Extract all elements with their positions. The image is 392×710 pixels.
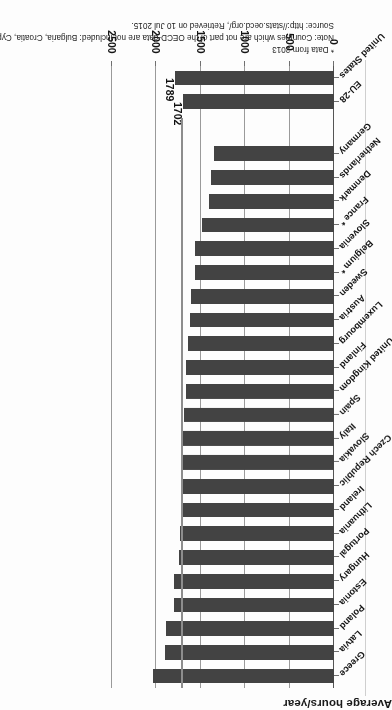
bar-row: Latvia bbox=[112, 645, 334, 660]
bar[interactable] bbox=[181, 503, 334, 518]
bar-value-label: 1789 bbox=[164, 78, 176, 101]
bar-row: Slovenia bbox=[112, 241, 334, 256]
category-tick bbox=[334, 319, 339, 320]
plot-area: 05001000150020002500 GreeceLatviaPolandE… bbox=[112, 66, 334, 688]
bar-row: Hungary bbox=[112, 574, 334, 589]
category-label: Spain bbox=[337, 393, 362, 418]
bar-row: Greece bbox=[112, 669, 334, 684]
bar[interactable] bbox=[182, 455, 334, 470]
category-tick bbox=[334, 248, 339, 249]
bar[interactable] bbox=[175, 71, 334, 86]
bar-row: Slovakia bbox=[112, 455, 334, 470]
bar-row: Netherlands bbox=[112, 170, 334, 185]
chart-canvas: Average hours/year 05001000150020002500 … bbox=[0, 0, 392, 710]
bar-row: France * bbox=[112, 218, 334, 233]
bar[interactable] bbox=[153, 669, 334, 684]
footnote-data-year: * Data from 2013 bbox=[4, 43, 334, 55]
category-tick bbox=[334, 390, 339, 391]
category-tick bbox=[334, 200, 339, 201]
bar[interactable] bbox=[188, 336, 334, 351]
category-tick bbox=[334, 604, 339, 605]
category-tick bbox=[334, 101, 339, 102]
bar[interactable] bbox=[209, 194, 334, 209]
category-tick bbox=[334, 461, 339, 462]
bar[interactable] bbox=[183, 94, 334, 109]
bar-row: Ireland bbox=[112, 503, 334, 518]
category-label: Poland bbox=[337, 602, 366, 631]
bar-row: Austria bbox=[112, 313, 334, 328]
category-tick bbox=[334, 77, 339, 78]
category-tick bbox=[334, 272, 339, 273]
bar[interactable] bbox=[182, 431, 334, 446]
category-label: Greece bbox=[337, 649, 366, 678]
bar[interactable] bbox=[195, 265, 334, 280]
bar[interactable] bbox=[174, 574, 334, 589]
bar-row: Poland bbox=[112, 621, 334, 636]
bar[interactable] bbox=[190, 313, 334, 328]
bar-row: Denmark bbox=[112, 194, 334, 209]
category-tick bbox=[334, 438, 339, 439]
category-label: EU-28 bbox=[337, 78, 363, 104]
category-tick bbox=[334, 533, 339, 534]
bar[interactable] bbox=[165, 645, 334, 660]
bar-row: Czech Republic bbox=[112, 479, 334, 494]
bar[interactable] bbox=[180, 550, 335, 565]
category-label: Italy bbox=[337, 421, 357, 441]
category-tick bbox=[334, 675, 339, 676]
bar-row: Lithuania bbox=[112, 526, 334, 541]
category-tick bbox=[334, 509, 339, 510]
bar-row: Portugal bbox=[112, 550, 334, 565]
category-tick bbox=[334, 224, 339, 225]
bar-row: United States1789 bbox=[112, 71, 334, 86]
category-tick bbox=[334, 651, 339, 652]
bar-row: Belgium * bbox=[112, 265, 334, 280]
bar[interactable] bbox=[214, 146, 334, 161]
bar[interactable] bbox=[186, 360, 334, 375]
bar[interactable] bbox=[166, 621, 334, 636]
category-tick bbox=[334, 580, 339, 581]
bar-row: EU-281702 bbox=[112, 94, 334, 109]
bar-row: Luxembourg bbox=[112, 336, 334, 351]
bar[interactable] bbox=[184, 408, 334, 423]
category-tick bbox=[334, 485, 339, 486]
bar-series: GreeceLatviaPolandEstoniaHungaryPortugal… bbox=[112, 66, 334, 688]
bar-row: Spain bbox=[112, 408, 334, 423]
category-tick bbox=[334, 153, 339, 154]
bar-row: Germany bbox=[112, 146, 334, 161]
eu28-reference-line bbox=[181, 118, 183, 688]
category-tick bbox=[334, 295, 339, 296]
bar[interactable] bbox=[202, 218, 334, 233]
bar[interactable] bbox=[186, 384, 334, 399]
footnote-source: Source: http://stats.oecd.org/, Retrieve… bbox=[4, 19, 334, 31]
bar[interactable] bbox=[195, 241, 334, 256]
bar[interactable] bbox=[211, 170, 334, 185]
category-tick bbox=[334, 177, 339, 178]
category-tick bbox=[334, 628, 339, 629]
bar[interactable] bbox=[174, 598, 334, 613]
footnotes: * Data from 2013 Note: Countries which a… bbox=[4, 19, 334, 55]
bar[interactable] bbox=[181, 479, 334, 494]
bar-row: Finland bbox=[112, 360, 334, 375]
axis-title: Average hours/year bbox=[283, 698, 392, 710]
category-tick bbox=[334, 414, 339, 415]
category-tick bbox=[334, 367, 339, 368]
bar-row: Estonia bbox=[112, 598, 334, 613]
category-label: United States bbox=[337, 31, 386, 80]
bar-row: Sweden bbox=[112, 289, 334, 304]
footnote-excluded-countries: Note: Countries which are not part of th… bbox=[4, 31, 334, 43]
bar-row: Italy bbox=[112, 431, 334, 446]
bar-row: United Kingdom bbox=[112, 384, 334, 399]
category-tick bbox=[334, 556, 339, 557]
bar[interactable] bbox=[191, 289, 334, 304]
category-tick bbox=[334, 343, 339, 344]
bar[interactable] bbox=[180, 526, 334, 541]
